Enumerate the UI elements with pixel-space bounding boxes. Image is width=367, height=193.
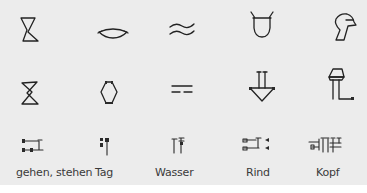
water-pictograph-icon	[168, 22, 196, 38]
sun-cuneiform-icon	[99, 137, 111, 157]
label-kopf: Kopf	[316, 166, 339, 179]
sun-pictograph-icon	[97, 28, 129, 40]
foot-pictograph-icon	[18, 16, 42, 44]
cuneiform-evolution-figure: gehen, stehen Tag Wasser Rind Kopf	[0, 0, 367, 193]
water-cuneiform-icon	[170, 137, 186, 155]
head-pictograph-icon	[332, 12, 358, 42]
foot-cuneiform-icon	[21, 138, 45, 154]
head-rotated-icon	[326, 67, 356, 103]
head-cuneiform-icon	[307, 136, 343, 154]
ox-head-pictograph-icon	[249, 10, 275, 40]
foot-rotated-icon	[19, 80, 41, 106]
label-wasser: Wasser	[155, 166, 193, 179]
water-rotated-icon	[170, 83, 194, 95]
label-gehen-stehen: gehen, stehen	[16, 166, 92, 179]
label-tag: Tag	[95, 166, 113, 179]
sun-rotated-icon	[99, 80, 119, 106]
ox-head-rotated-icon	[248, 70, 276, 104]
ox-cuneiform-icon	[242, 137, 272, 153]
label-rind: Rind	[246, 166, 270, 179]
